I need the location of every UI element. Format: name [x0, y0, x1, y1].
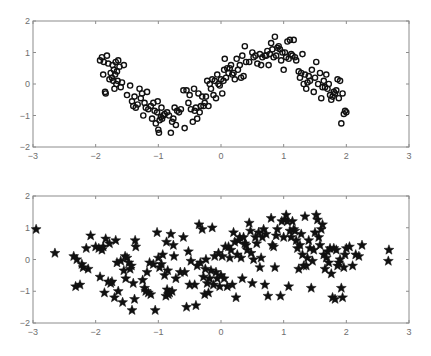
- y-tick-label: −1: [20, 286, 30, 296]
- x-tick-label: −1: [153, 151, 163, 161]
- x-tick-label: −3: [28, 327, 38, 337]
- y-tick-label: −2: [20, 142, 30, 152]
- y-tick-label: 1: [25, 48, 30, 58]
- x-tick-label: 2: [344, 151, 349, 161]
- x-tick-label: 1: [281, 151, 286, 161]
- y-tick-label: 1: [25, 223, 30, 233]
- figure-canvas: −3−2−10123−2−1012 −3−2−10123−2−1012: [0, 0, 431, 356]
- x-tick-label: 3: [406, 327, 411, 337]
- bottom-scatter-plot-stars: −3−2−10123−2−1012: [20, 191, 412, 337]
- y-tick-label: 2: [25, 191, 30, 201]
- figure: −3−2−10123−2−1012 −3−2−10123−2−1012: [0, 0, 431, 356]
- y-tick-label: −1: [20, 111, 30, 121]
- x-tick-label: 0: [218, 151, 223, 161]
- y-tick-label: 0: [25, 79, 30, 89]
- top-scatter-plot-circles: −3−2−10123−2−1012: [20, 16, 412, 161]
- x-tick-label: 0: [218, 327, 223, 337]
- x-tick-label: 1: [281, 327, 286, 337]
- y-tick-label: −2: [20, 318, 30, 328]
- y-tick-label: 2: [25, 16, 30, 26]
- x-tick-label: 2: [344, 327, 349, 337]
- x-tick-label: −3: [28, 151, 38, 161]
- y-tick-label: 0: [25, 255, 30, 265]
- x-tick-label: −2: [91, 151, 101, 161]
- x-tick-label: −1: [153, 327, 163, 337]
- x-tick-label: −2: [91, 327, 101, 337]
- x-tick-label: 3: [406, 151, 411, 161]
